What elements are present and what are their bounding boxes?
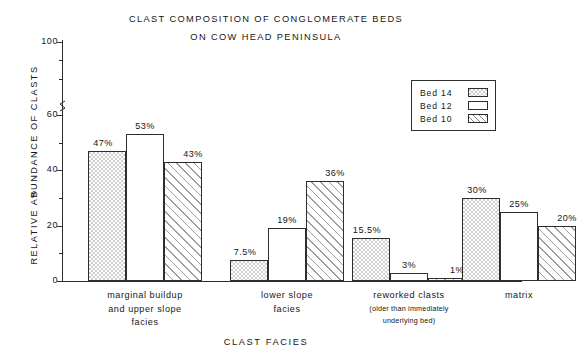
x-axis-title: CLAST FACIES [0, 337, 532, 347]
y-tick-label: 20 [47, 220, 58, 230]
bar-value-label: 20% [541, 213, 581, 223]
legend-swatch-hatch [468, 114, 488, 123]
legend-item-label: Bed 12 [420, 101, 466, 111]
legend-item[interactable]: Bed 14 [420, 86, 488, 99]
category-label: marginal buildupand upper slopefacies [75, 289, 215, 330]
legend-swatch-stipple [468, 88, 488, 97]
bar-value-label: 47% [77, 138, 129, 148]
y-tick-minor [59, 79, 63, 80]
bar [390, 273, 428, 281]
x-axis-line [62, 281, 522, 282]
bar [538, 226, 576, 281]
bar-value-label: 25% [493, 199, 545, 209]
bar-value-label: 53% [119, 121, 171, 131]
chart-title-line-1: CLAST COMPOSITION OF CONGLOMERATE BEDS [0, 14, 532, 24]
y-tick-label: 100 [41, 36, 58, 46]
bar-value-label: 3% [383, 260, 435, 270]
legend-item[interactable]: Bed 10 [420, 112, 488, 125]
bar [126, 134, 164, 281]
bar [500, 212, 538, 281]
category-label: matrix [449, 289, 581, 303]
bar-value-label: 15.5% [341, 225, 393, 235]
legend-item-label: Bed 14 [420, 88, 466, 98]
y-tick-minor [59, 143, 63, 144]
y-tick-minor [59, 198, 63, 199]
bar-value-label: 43% [167, 149, 219, 159]
bar-value-label: 36% [309, 168, 361, 178]
bar [306, 181, 344, 281]
y-tick-label: 60 [47, 109, 58, 119]
bar [462, 198, 500, 281]
axis-break-icon [58, 99, 68, 111]
bar [268, 228, 306, 281]
y-tick-minor [59, 60, 63, 61]
bar [88, 151, 126, 281]
y-axis-title: RELATIVE ABUNDANCE OF CLASTS [29, 45, 39, 285]
legend-item[interactable]: Bed 12 [420, 99, 488, 112]
y-axis-line [62, 40, 63, 282]
y-tick-label: 40 [47, 164, 58, 174]
legend-swatch-blank [468, 101, 488, 110]
legend-item-label: Bed 10 [420, 114, 466, 124]
legend: Bed 14Bed 12Bed 10 [411, 80, 496, 131]
bar [230, 260, 268, 281]
category-label: lower slopefacies [217, 289, 357, 316]
bar-value-label: 30% [451, 185, 503, 195]
bar [164, 162, 202, 281]
y-tick-label: 0 [52, 275, 58, 285]
bar-value-label: 7.5% [219, 247, 271, 257]
y-axis-unit-label: % [29, 191, 38, 198]
plot-area: 0204060100 47%53%43%7.5%19%36%15.5%3%1%3… [62, 40, 522, 282]
bar [428, 278, 466, 281]
y-tick-minor [59, 253, 63, 254]
